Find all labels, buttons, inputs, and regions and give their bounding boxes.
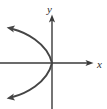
x-axis [0,60,94,66]
graph-figure: y x [0,0,107,109]
parabola-upper-branch [13,29,53,63]
coordinate-plane-svg: y x [0,0,107,109]
y-axis-label: y [46,3,52,15]
x-axis-label: x [96,58,102,70]
parabola-lower-branch [13,63,53,97]
